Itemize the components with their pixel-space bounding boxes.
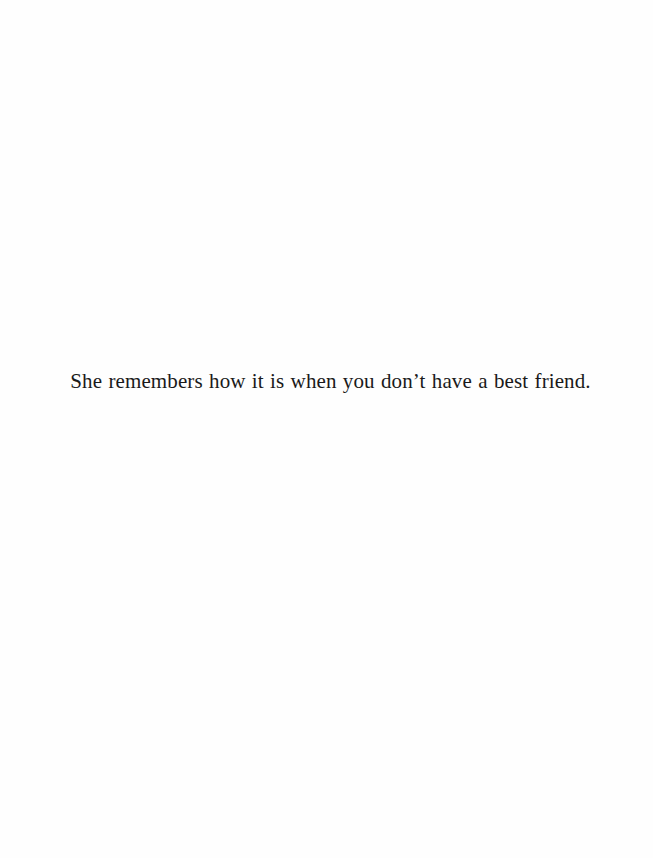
body-text-line: She remembers how it is when you don’t h… [0, 366, 653, 396]
book-page: She remembers how it is when you don’t h… [0, 0, 653, 858]
